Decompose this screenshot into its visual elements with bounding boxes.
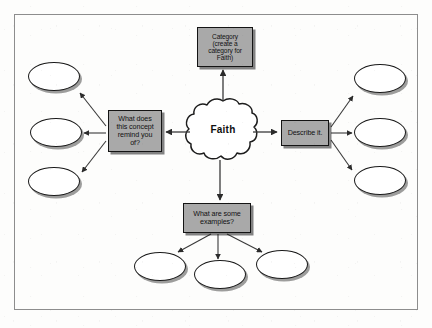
leaf-node-left-top[interactable] [28, 62, 80, 91]
category-line-4: Faith) [217, 54, 233, 61]
node-box-examples-text: What are some examples? [193, 210, 240, 226]
node-box-category[interactable]: Category (create a category for Faith) [197, 27, 253, 67]
leaf-node-bottom-right[interactable] [256, 250, 308, 279]
category-line-1: Category [212, 33, 238, 40]
diagram-canvas: Faith Category (create a category for Fa… [0, 0, 432, 328]
examples-line-2: examples? [200, 217, 234, 226]
describe-line-1: Describe it. [288, 128, 323, 137]
connector-remind-to-left-top [80, 93, 106, 126]
category-line-2: (create a [212, 40, 237, 47]
leaf-node-right-top[interactable] [354, 64, 406, 93]
node-box-remind[interactable]: What does this concept remind you of? [108, 110, 162, 152]
leaf-node-bottom-center[interactable] [194, 260, 246, 289]
connector-examples-to-bottom-right [227, 234, 262, 252]
connector-examples-to-bottom-left [178, 234, 211, 252]
node-box-remind-text: What does this concept remind you of? [116, 115, 153, 146]
node-box-describe[interactable]: Describe it. [281, 120, 329, 146]
category-line-3: category for [208, 47, 242, 54]
center-node-label: Faith [187, 124, 259, 135]
leaf-node-left-bottom[interactable] [28, 167, 80, 196]
leaf-node-right-mid[interactable] [354, 118, 406, 147]
node-box-describe-text: Describe it. [288, 129, 323, 137]
connector-describe-to-right-top [331, 96, 353, 127]
connector-describe-to-right-bottom [331, 140, 352, 170]
leaf-node-right-bottom[interactable] [354, 166, 406, 195]
node-box-category-text: Category (create a category for Faith) [208, 33, 242, 61]
node-box-examples[interactable]: What are some examples? [183, 203, 251, 233]
leaf-node-left-mid[interactable] [30, 118, 82, 147]
remind-line-4: of? [130, 138, 140, 147]
leaf-node-bottom-left[interactable] [134, 252, 186, 281]
connector-remind-to-left-bottom [82, 141, 106, 172]
